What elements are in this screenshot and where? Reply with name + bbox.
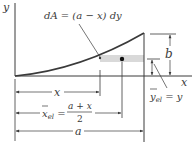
element-leader [79,24,100,57]
centroid-diagram: x xel = a + x 2 a b y x dA = (a − x) dy … [0,0,196,142]
dim-x-label: x [54,86,61,99]
element-label: dA = (a − x) dy [44,10,122,21]
dim-a-label: a [75,125,82,138]
dim-xel-numerator: a + x [68,101,92,111]
dim-b-label: b [165,47,173,61]
diagram-canvas: x xel = a + x 2 a b y x dA = (a − x) dy … [0,0,196,142]
element-centroid-dot [120,57,124,61]
boundary-curve [15,33,144,76]
yel-label: yel = y [149,91,183,104]
y-axis-label: y [2,1,10,14]
dim-xel-denominator: 2 [77,114,83,124]
curve-point [99,57,101,59]
x-axis-label: x [181,76,188,89]
